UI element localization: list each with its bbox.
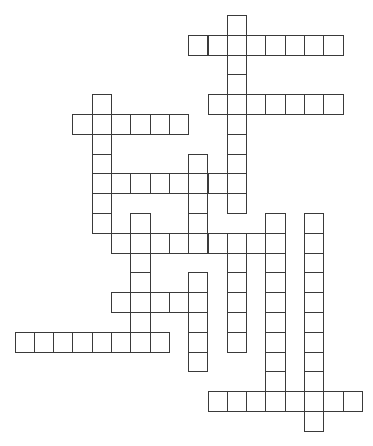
- crossword-cell[interactable]: [265, 391, 285, 412]
- crossword-cell[interactable]: [130, 213, 150, 234]
- crossword-cell[interactable]: [34, 332, 54, 353]
- crossword-cell[interactable]: [227, 173, 247, 194]
- crossword-cell[interactable]: [92, 173, 112, 194]
- crossword-cell[interactable]: [188, 332, 208, 353]
- crossword-cell[interactable]: [92, 332, 112, 353]
- crossword-cell[interactable]: [15, 332, 35, 353]
- crossword-cell[interactable]: [130, 233, 150, 254]
- crossword-cell[interactable]: [111, 292, 131, 313]
- crossword-cell[interactable]: [265, 253, 285, 274]
- crossword-cell[interactable]: [323, 94, 343, 115]
- crossword-cell[interactable]: [304, 233, 324, 254]
- crossword-cell[interactable]: [150, 332, 170, 353]
- crossword-cell[interactable]: [227, 233, 247, 254]
- crossword-cell[interactable]: [304, 352, 324, 373]
- crossword-cell[interactable]: [323, 391, 343, 412]
- crossword-cell[interactable]: [265, 332, 285, 353]
- crossword-cell[interactable]: [304, 411, 324, 432]
- crossword-cell[interactable]: [323, 35, 343, 56]
- crossword-cell[interactable]: [304, 213, 324, 234]
- crossword-cell[interactable]: [343, 391, 363, 412]
- crossword-cell[interactable]: [304, 253, 324, 274]
- crossword-cell[interactable]: [188, 154, 208, 175]
- crossword-cell[interactable]: [227, 134, 247, 155]
- crossword-cell[interactable]: [169, 114, 189, 135]
- crossword-cell[interactable]: [130, 272, 150, 293]
- crossword-cell[interactable]: [92, 213, 112, 234]
- crossword-cell[interactable]: [188, 292, 208, 313]
- crossword-cell[interactable]: [265, 312, 285, 333]
- crossword-cell[interactable]: [150, 233, 170, 254]
- crossword-cell[interactable]: [285, 94, 305, 115]
- crossword-cell[interactable]: [265, 35, 285, 56]
- crossword-cell[interactable]: [227, 272, 247, 293]
- crossword-cell[interactable]: [188, 352, 208, 373]
- crossword-cell[interactable]: [208, 94, 228, 115]
- crossword-cell[interactable]: [150, 292, 170, 313]
- crossword-cell[interactable]: [227, 253, 247, 274]
- crossword-cell[interactable]: [188, 272, 208, 293]
- crossword-cell[interactable]: [188, 312, 208, 333]
- crossword-cell[interactable]: [72, 114, 92, 135]
- crossword-cell[interactable]: [304, 312, 324, 333]
- crossword-cell[interactable]: [188, 173, 208, 194]
- crossword-cell[interactable]: [304, 391, 324, 412]
- crossword-cell[interactable]: [92, 94, 112, 115]
- crossword-cell[interactable]: [304, 272, 324, 293]
- crossword-cell[interactable]: [169, 233, 189, 254]
- crossword-cell[interactable]: [227, 292, 247, 313]
- crossword-cell[interactable]: [227, 391, 247, 412]
- crossword-cell[interactable]: [188, 193, 208, 214]
- crossword-cell[interactable]: [265, 371, 285, 392]
- crossword-cell[interactable]: [150, 173, 170, 194]
- crossword-cell[interactable]: [111, 332, 131, 353]
- crossword-cell[interactable]: [285, 391, 305, 412]
- crossword-cell[interactable]: [227, 35, 247, 56]
- crossword-cell[interactable]: [227, 312, 247, 333]
- crossword-cell[interactable]: [304, 371, 324, 392]
- crossword-cell[interactable]: [208, 391, 228, 412]
- crossword-cell[interactable]: [246, 35, 266, 56]
- crossword-cell[interactable]: [188, 35, 208, 56]
- crossword-cell[interactable]: [92, 134, 112, 155]
- crossword-cell[interactable]: [227, 154, 247, 175]
- crossword-cell[interactable]: [130, 332, 150, 353]
- crossword-cell[interactable]: [265, 292, 285, 313]
- crossword-cell[interactable]: [130, 312, 150, 333]
- crossword-cell[interactable]: [227, 15, 247, 36]
- crossword-cell[interactable]: [111, 233, 131, 254]
- crossword-cell[interactable]: [304, 94, 324, 115]
- crossword-cell[interactable]: [130, 114, 150, 135]
- crossword-cell[interactable]: [188, 233, 208, 254]
- crossword-cell[interactable]: [72, 332, 92, 353]
- crossword-cell[interactable]: [92, 154, 112, 175]
- crossword-cell[interactable]: [227, 74, 247, 95]
- crossword-cell[interactable]: [150, 114, 170, 135]
- crossword-cell[interactable]: [246, 233, 266, 254]
- crossword-cell[interactable]: [169, 292, 189, 313]
- crossword-cell[interactable]: [227, 114, 247, 135]
- crossword-cell[interactable]: [92, 193, 112, 214]
- crossword-cell[interactable]: [208, 233, 228, 254]
- crossword-cell[interactable]: [188, 213, 208, 234]
- crossword-cell[interactable]: [304, 35, 324, 56]
- crossword-cell[interactable]: [246, 391, 266, 412]
- crossword-cell[interactable]: [285, 35, 305, 56]
- crossword-cell[interactable]: [246, 94, 266, 115]
- crossword-cell[interactable]: [304, 332, 324, 353]
- crossword-cell[interactable]: [111, 173, 131, 194]
- crossword-cell[interactable]: [130, 292, 150, 313]
- crossword-cell[interactable]: [169, 173, 189, 194]
- crossword-cell[interactable]: [265, 233, 285, 254]
- crossword-cell[interactable]: [227, 193, 247, 214]
- crossword-cell[interactable]: [227, 94, 247, 115]
- crossword-cell[interactable]: [130, 253, 150, 274]
- crossword-cell[interactable]: [130, 173, 150, 194]
- crossword-cell[interactable]: [304, 292, 324, 313]
- crossword-cell[interactable]: [265, 272, 285, 293]
- crossword-cell[interactable]: [111, 114, 131, 135]
- crossword-cell[interactable]: [53, 332, 73, 353]
- crossword-cell[interactable]: [265, 213, 285, 234]
- crossword-cell[interactable]: [265, 352, 285, 373]
- crossword-cell[interactable]: [227, 332, 247, 353]
